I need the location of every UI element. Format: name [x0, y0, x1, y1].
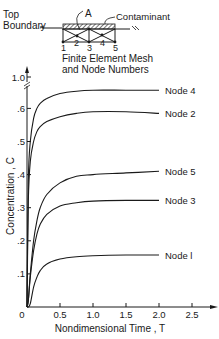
contaminant-label: Contaminant [116, 11, 170, 22]
x-tick-label: 0 [19, 309, 24, 320]
series-labels: Node 4Node 2Node 5Node 3Node l [165, 85, 196, 261]
y-tick-label: .6 [17, 103, 25, 114]
node-number-5: 5 [113, 43, 118, 53]
axes [27, 70, 214, 307]
y-tick-label: .4 [17, 169, 25, 180]
x-tick-label: 2.5 [185, 309, 198, 320]
top-boundary-label-2: Boundary [3, 20, 46, 31]
x-tick-label: 2.0 [152, 309, 165, 320]
break-mark-icon [132, 26, 139, 30]
mesh-diagram: Top Boundary [3, 8, 170, 75]
y-axis-arrow-icon [25, 66, 29, 73]
x-ticks: 00.51.01.52.02.5 [19, 303, 198, 320]
series-line-node-4 [27, 90, 159, 307]
node-number-2: 2 [74, 38, 79, 48]
contaminant-leader [105, 17, 115, 24]
x-tick-label: 0.5 [53, 309, 66, 320]
y-tick-label: .2 [17, 235, 25, 246]
series-label: Node l [165, 250, 192, 261]
node-number-3: 3 [87, 43, 92, 53]
x-tick-label: 1.5 [119, 309, 132, 320]
figure: Top Boundary [0, 0, 219, 339]
series-line-node-3 [27, 200, 159, 307]
y-axis-title: Concentration , C [5, 157, 16, 235]
mesh-elements [63, 29, 115, 42]
x-axis-title: Nondimensional Time , T [55, 323, 165, 334]
series-line-node-2 [27, 111, 159, 307]
data-series [27, 90, 159, 307]
series-line-node-5 [27, 171, 159, 307]
y-tick-label: .3 [17, 202, 25, 213]
x-tick-label: 1.0 [86, 309, 99, 320]
series-label: Node 5 [165, 166, 196, 177]
node-number-1: 1 [61, 43, 66, 53]
y-tick-label: .5 [17, 136, 25, 147]
series-label: Node 4 [165, 85, 196, 96]
top-boundary-label-1: Top [3, 9, 20, 20]
inset-caption-1: Finite Element Mesh [62, 53, 153, 64]
series-line-node-1 [27, 255, 159, 307]
point-label-a: A [85, 8, 92, 19]
series-label: Node 2 [165, 108, 196, 119]
series-label: Node 3 [165, 195, 196, 206]
y-tick-label: 1.0 [12, 72, 25, 83]
inset-caption-2: and Node Numbers [62, 64, 149, 75]
y-tick-label: .1 [17, 268, 25, 279]
node-number-4: 4 [100, 38, 105, 48]
x-axis-arrow-icon [210, 305, 218, 309]
